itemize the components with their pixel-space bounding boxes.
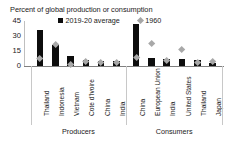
group-separator-1 [126, 66, 127, 126]
y-tick-label-15: 15 [13, 47, 21, 55]
category-label-1: Indonesia [58, 87, 65, 116]
bar-united-states-9 [179, 59, 186, 66]
chart-container: Percent of global production or consumpt… [0, 0, 233, 146]
x-axis-category-labels: ThailandIndonesiaVietnamCote d'IvoireChi… [24, 66, 224, 118]
category-label-9: United States [185, 76, 192, 116]
category-label-8: India [169, 102, 176, 116]
category-label-3: Cote d'Ivoire [88, 79, 95, 116]
category-label-2: Vietnam [73, 92, 80, 116]
group-label-producers: Producers [31, 128, 127, 136]
data-series-layer [24, 21, 224, 66]
group-label-consumers: Consumers [126, 128, 222, 136]
category-label-7: European Union [154, 68, 161, 116]
plot-area: 0153045 [24, 21, 224, 66]
category-label-0: Thailand [43, 91, 50, 116]
chart-title: Percent of global production or consumpt… [10, 5, 152, 14]
category-label-6: China [139, 99, 146, 116]
marker-united-states-9 [178, 46, 186, 54]
y-tick-label-30: 30 [13, 32, 21, 40]
marker-european-union-7 [148, 40, 156, 48]
y-tick-label-45: 45 [13, 17, 21, 25]
bar-european-union-7 [148, 58, 155, 66]
category-label-10: Thailand [200, 91, 207, 116]
category-label-4: China [104, 99, 111, 116]
category-label-5: India [119, 102, 126, 116]
group-separator-0 [31, 66, 32, 126]
y-tick-label-0: 0 [17, 62, 21, 70]
group-separator-2 [222, 66, 223, 126]
